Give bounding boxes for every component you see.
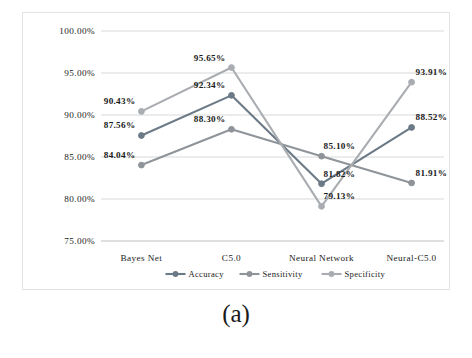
data-label-sensitivity-2: 85.10% — [324, 141, 356, 151]
data-label-specificity-3: 93.91% — [416, 67, 448, 77]
data-point-sensitivity-2 — [319, 153, 325, 159]
series-lines-group — [141, 68, 411, 207]
legend-label-accuracy: Accuracy — [189, 269, 225, 279]
x-axis-tick-label: Neural-C5.0 — [387, 253, 437, 263]
data-label-specificity-2: 79.13% — [324, 191, 356, 201]
figure-container: 100.00%95.00%90.00%85.00%80.00%75.00% Ba… — [0, 0, 472, 358]
data-point-sensitivity-0 — [139, 162, 145, 168]
x-axis-tick-labels: Bayes NetC5.0Neural NetworkNeural-C5.0 — [121, 253, 437, 263]
legend-label-specificity: Specificity — [345, 269, 386, 279]
x-axis-tick-label: Bayes Net — [121, 253, 163, 263]
data-point-accuracy-1 — [229, 92, 235, 98]
line-chart: 100.00%95.00%90.00%85.00%80.00%75.00% Ba… — [23, 13, 451, 291]
data-label-sensitivity-1: 88.30% — [194, 114, 226, 124]
data-label-sensitivity-0: 84.04% — [104, 150, 136, 160]
data-label-accuracy-0: 87.56% — [104, 120, 136, 130]
legend-marker-accuracy — [173, 271, 179, 277]
data-label-specificity-1: 95.65% — [194, 53, 226, 63]
y-axis-tick-label: 80.00% — [64, 194, 95, 204]
data-point-specificity-1 — [229, 65, 235, 71]
data-point-sensitivity-1 — [229, 126, 235, 132]
data-label-accuracy-2: 81.82% — [324, 169, 356, 179]
legend-marker-sensitivity — [247, 271, 253, 277]
data-point-specificity-0 — [139, 108, 145, 114]
data-point-accuracy-3 — [409, 125, 415, 131]
chart-frame: 100.00%95.00%90.00%85.00%80.00%75.00% Ba… — [22, 12, 450, 290]
legend-label-sensitivity: Sensitivity — [263, 269, 303, 279]
data-point-accuracy-0 — [139, 133, 145, 139]
data-point-specificity-3 — [409, 79, 415, 85]
y-axis-tick-label: 75.00% — [64, 236, 95, 246]
data-point-sensitivity-3 — [409, 180, 415, 186]
y-axis-tick-label: 100.00% — [59, 26, 95, 36]
data-point-accuracy-2 — [319, 181, 325, 187]
data-point-specificity-2 — [319, 203, 325, 209]
data-label-sensitivity-3: 81.91% — [416, 168, 448, 178]
y-axis-tick-labels: 100.00%95.00%90.00%85.00%80.00%75.00% — [59, 26, 95, 246]
x-axis-tick-label: Neural Network — [289, 253, 354, 263]
data-label-specificity-0: 90.43% — [104, 96, 136, 106]
legend-marker-specificity — [329, 271, 335, 277]
x-axis-tick-label: C5.0 — [222, 253, 241, 263]
y-axis-tick-label: 95.00% — [64, 68, 95, 78]
chart-legend: AccuracySensitivitySpecificity — [166, 269, 386, 279]
series-line-specificity — [141, 68, 411, 207]
y-axis-tick-label: 90.00% — [64, 110, 95, 120]
figure-caption: (a) — [0, 300, 472, 328]
y-axis-tick-label: 85.00% — [64, 152, 95, 162]
data-label-accuracy-3: 88.52% — [416, 112, 448, 122]
data-label-accuracy-1: 92.34% — [194, 80, 226, 90]
